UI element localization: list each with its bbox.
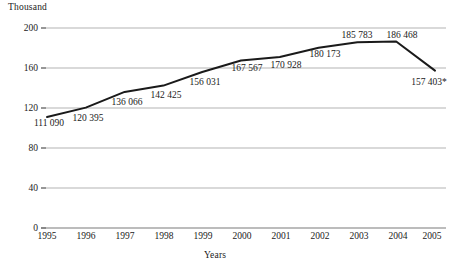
- x-tick-label-2005: 2005: [412, 231, 452, 241]
- data-label-1996: 120 395: [65, 113, 111, 123]
- x-tick-label-2003: 2003: [339, 231, 379, 241]
- x-tick-label-2002: 2002: [300, 231, 340, 241]
- data-label-2001: 170 928: [263, 60, 309, 70]
- data-label-2005: 157 403*: [406, 77, 452, 87]
- x-tick-label-1997: 1997: [105, 231, 145, 241]
- y-axis-ticks: [41, 28, 46, 228]
- data-label-2003: 185 783: [334, 30, 380, 40]
- x-tick-label-1996: 1996: [66, 231, 106, 241]
- gridlines: [41, 28, 446, 228]
- x-tick-label-2000: 2000: [222, 231, 262, 241]
- plot-area: [0, 0, 461, 269]
- data-label-2002: 180 173: [302, 49, 348, 59]
- data-label-1999: 156 031: [182, 77, 228, 87]
- data-label-2004: 186 468: [379, 30, 425, 40]
- line-chart: Thousand Years 200 160 120 80 40 0 111 0…: [0, 0, 461, 269]
- x-tick-label-1999: 1999: [183, 231, 223, 241]
- x-tick-label-1998: 1998: [144, 231, 184, 241]
- data-label-1998: 142 425: [143, 90, 189, 100]
- x-tick-label-1995: 1995: [27, 231, 67, 241]
- x-tick-label-2001: 2001: [261, 231, 301, 241]
